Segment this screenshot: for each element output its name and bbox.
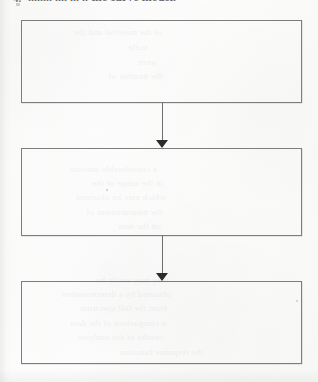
flowchart-connector <box>156 236 169 281</box>
flowchart-node <box>21 20 302 103</box>
scanned-page: of the material and thescalewerethe numb… <box>0 0 318 382</box>
flowchart-connector <box>156 103 169 148</box>
connector-line <box>162 103 163 141</box>
arrowhead-down-icon <box>156 273 168 281</box>
page-edge-shadow-left <box>0 0 12 382</box>
heading-text: ........ .... ... .. the curve model. <box>28 0 176 4</box>
flowchart-node <box>21 281 302 364</box>
page-edge-shadow-bottom <box>0 368 318 382</box>
connector-line <box>162 236 163 274</box>
arrowhead-down-icon <box>156 140 168 148</box>
page-heading: 4. ........ .... ... .. the curve model. <box>0 0 318 9</box>
flowchart-node <box>21 148 302 236</box>
heading-list-marker: 4. <box>13 0 21 5</box>
